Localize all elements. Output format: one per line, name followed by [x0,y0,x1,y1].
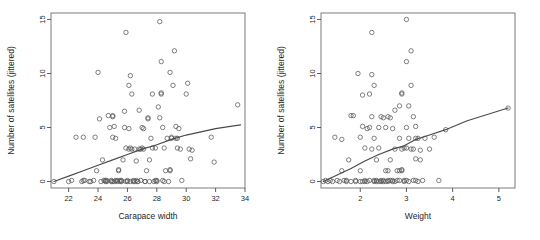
data-point [136,179,140,183]
data-point [128,146,132,150]
data-point [190,148,194,152]
data-point [397,104,401,108]
y-tick-label: 15 [39,15,48,23]
data-point [420,178,424,182]
data-point [372,83,376,87]
x-axis-title: Weight [405,211,432,221]
data-point [409,49,413,53]
x-tick-label: 26 [123,194,131,203]
x-tick-label: 5 [497,194,501,203]
data-point [99,179,103,183]
data-point [127,83,131,87]
data-point [407,104,411,108]
data-point [147,158,151,162]
trend-line [323,108,508,181]
data-point [397,136,401,140]
data-point [66,179,70,183]
data-point [358,169,362,173]
y-tick-label: 15 [309,15,318,23]
data-point [390,126,394,130]
data-point [161,125,165,129]
data-point [377,125,381,129]
x-tick-label: 4 [451,194,455,203]
y-tick-label: 10 [39,69,48,77]
data-point [347,158,351,162]
data-point [163,169,167,173]
data-point [427,147,431,151]
data-point [358,135,362,139]
data-point [113,136,117,140]
data-point [374,158,378,162]
data-point [128,73,132,77]
data-point [147,179,151,183]
scatter-panel-weight: 2345Weight051015Number of satellites (ji… [270,0,540,240]
data-point [112,124,116,128]
y-tick-label: 0 [39,179,48,183]
y-tick-label: 0 [309,179,318,183]
figure-container: 22242628303234Carapace width051015Number… [0,0,540,240]
data-point [418,158,422,162]
data-point [162,179,166,183]
data-point [150,92,154,96]
data-point [141,126,145,130]
data-point [180,178,184,182]
data-point [437,178,441,182]
data-point [393,108,397,112]
data-point [153,146,157,150]
data-point [121,158,125,162]
x-tick-label: 30 [182,194,190,203]
data-point [161,178,165,182]
panel-left-plot-area: 22242628303234Carapace width051015Number… [6,13,249,221]
data-point [81,135,85,139]
y-tick-label: 10 [309,69,318,77]
data-point [388,158,392,162]
data-point [91,178,95,182]
y-tick-label: 5 [39,125,48,129]
data-point [413,124,417,128]
data-point [370,115,374,119]
x-tick-label: 28 [153,194,161,203]
data-point [356,71,360,75]
data-point [138,178,142,182]
data-point [404,125,408,129]
data-point [168,70,172,74]
data-point [124,146,128,150]
x-axis-title: Carapace width [118,211,177,221]
data-point [360,124,364,128]
data-point [100,158,104,162]
data-point [404,17,408,21]
data-point [96,70,100,74]
x-tick-label: 34 [241,194,249,203]
data-point [69,178,73,182]
data-point [185,81,189,85]
data-point [372,136,376,140]
x-tick-label: 2 [358,194,362,203]
data-point [432,135,436,139]
data-point [175,146,179,150]
data-point [333,135,337,139]
data-point [418,148,422,152]
data-point [108,125,112,129]
scatter-panel-carapace-width: 22242628303234Carapace width051015Number… [0,0,270,240]
data-point [409,83,413,87]
data-point [172,49,176,53]
data-point [370,30,374,34]
data-point [184,92,188,96]
data-point [143,179,147,183]
data-point [367,92,371,96]
data-point [158,19,162,23]
y-axis-title: Number of satellites (jittered) [276,46,286,155]
data-point [188,157,192,161]
data-points [321,17,510,183]
data-point [74,135,78,139]
data-point [134,159,138,163]
data-point [413,157,417,161]
data-point [383,125,387,129]
data-point [187,147,191,151]
data-point [144,169,148,173]
data-point [122,125,126,129]
data-point [97,117,101,121]
data-point [340,137,344,141]
data-point [140,125,144,129]
data-points [52,19,240,183]
